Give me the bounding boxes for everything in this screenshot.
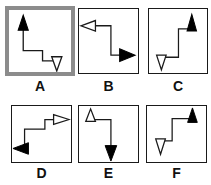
panel-d[interactable] xyxy=(11,105,72,163)
panel-c-diagram xyxy=(149,9,207,73)
panel-a[interactable] xyxy=(5,6,75,76)
connector-line-e xyxy=(91,120,111,149)
open-down-arrow-a xyxy=(52,57,62,71)
figure-stage: A B C D xyxy=(0,0,211,185)
panel-b[interactable] xyxy=(78,8,139,74)
panel-label-c: C xyxy=(148,79,208,93)
open-up-arrow-e xyxy=(86,109,96,122)
panel-a-diagram xyxy=(9,10,71,72)
panel-label-e: E xyxy=(78,166,139,180)
panel-label-a: A xyxy=(5,79,75,93)
panel-d-diagram xyxy=(12,106,71,162)
panel-label-b: B xyxy=(78,79,139,93)
filled-right-arrow-b xyxy=(120,49,135,62)
panel-e[interactable] xyxy=(78,105,139,163)
open-right-arrow-d xyxy=(54,115,69,125)
connector-line-f xyxy=(161,119,191,141)
panel-f-diagram xyxy=(147,106,206,162)
connector-line-d xyxy=(25,120,55,149)
connector-line-a xyxy=(23,28,57,61)
panel-b-diagram xyxy=(79,9,138,73)
panel-f[interactable] xyxy=(146,105,207,163)
panel-c[interactable] xyxy=(148,8,208,74)
panel-e-diagram xyxy=(79,106,138,162)
connector-line-c xyxy=(161,29,191,57)
filled-up-arrow-f xyxy=(188,108,198,122)
open-down-arrow-f xyxy=(156,139,166,154)
filled-down-arrow-e xyxy=(105,146,117,161)
filled-left-arrow-d xyxy=(13,143,28,155)
panel-label-f: F xyxy=(146,166,207,180)
open-left-arrow-b xyxy=(81,21,96,31)
filled-up-arrow-c xyxy=(187,14,197,31)
open-down-arrow-c xyxy=(157,55,167,70)
filled-up-arrow-a xyxy=(18,15,28,30)
panel-label-d: D xyxy=(11,166,72,180)
